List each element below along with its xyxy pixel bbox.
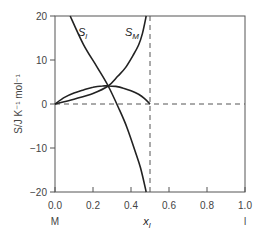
x-tick-0-2: 0.2 [86, 200, 100, 211]
label-s-l: Sl [78, 26, 87, 41]
y-axis-title: S/J K⁻¹ mol⁻¹ [13, 74, 24, 134]
left-end-label: M [51, 216, 59, 227]
y-tick-20: 20 [36, 11, 48, 22]
entropy-chart: 20 10 0 −10 −20 0.0 0.2 0.4 0.6 0.8 1.0 … [0, 0, 263, 236]
x-tick-0-8: 0.8 [200, 200, 214, 211]
curve-s-l [70, 16, 146, 192]
y-tick-10: 10 [36, 55, 48, 66]
y-tick-neg20: −20 [30, 187, 47, 198]
x-axis-title: xl [142, 215, 151, 230]
x-tick-0-4: 0.4 [124, 200, 138, 211]
x-tick-0-6: 0.6 [162, 200, 176, 211]
y-tick-0: 0 [41, 99, 47, 110]
right-end-label: l [244, 216, 246, 227]
y-tick-neg10: −10 [30, 143, 47, 154]
x-tick-1-0: 1.0 [238, 200, 252, 211]
y-axis-ticks [50, 16, 55, 192]
x-tick-0: 0.0 [48, 200, 62, 211]
label-s-m: SM [125, 26, 139, 41]
